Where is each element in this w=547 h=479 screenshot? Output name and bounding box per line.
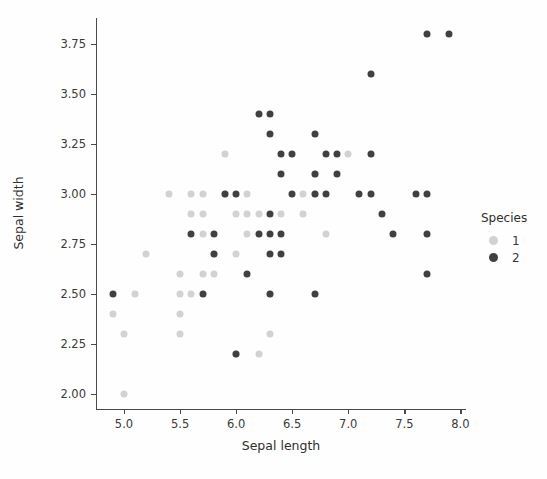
scatter-plot-figure: 5.05.56.06.57.07.58.0 2.002.252.502.753.… [0, 0, 547, 479]
data-point [255, 231, 262, 238]
data-point [334, 151, 341, 158]
data-point [177, 331, 184, 338]
data-point [233, 351, 240, 358]
plot-area [96, 18, 466, 410]
data-point [367, 71, 374, 78]
data-point [311, 191, 318, 198]
legend-marker-icon [489, 253, 498, 262]
data-point [255, 111, 262, 118]
data-point [266, 291, 273, 298]
legend-item-label: 1 [512, 234, 520, 248]
y-tick-label: 2.75 [44, 237, 86, 251]
data-point [233, 251, 240, 258]
data-point [188, 191, 195, 198]
data-point [278, 251, 285, 258]
data-point [278, 171, 285, 178]
data-point [143, 251, 150, 258]
x-tick-label: 7.5 [395, 417, 413, 431]
data-point [121, 331, 128, 338]
data-point [177, 311, 184, 318]
data-point [311, 131, 318, 138]
data-point [109, 311, 116, 318]
data-point [255, 351, 262, 358]
legend: Species 12 [481, 211, 527, 266]
data-point [289, 151, 296, 158]
data-point [244, 211, 251, 218]
data-point [233, 211, 240, 218]
data-point [266, 331, 273, 338]
x-tick-label: 8.0 [451, 417, 469, 431]
data-point [311, 291, 318, 298]
legend-marker-icon [489, 236, 498, 245]
y-tick-label: 3.75 [44, 37, 86, 51]
data-point [221, 191, 228, 198]
y-tick-label: 3.00 [44, 187, 86, 201]
data-point [266, 111, 273, 118]
data-point [423, 191, 430, 198]
data-point [188, 291, 195, 298]
data-point [356, 191, 363, 198]
legend-item[interactable]: 1 [481, 232, 527, 249]
data-point [367, 191, 374, 198]
data-point [221, 151, 228, 158]
data-point [266, 231, 273, 238]
y-axis-label: Sepal width [11, 176, 26, 249]
data-point [334, 171, 341, 178]
data-point [423, 271, 430, 278]
data-point [322, 191, 329, 198]
data-point [412, 191, 419, 198]
data-point [244, 271, 251, 278]
data-point [177, 271, 184, 278]
data-point [188, 231, 195, 238]
data-point [177, 291, 184, 298]
data-point [199, 291, 206, 298]
data-point [188, 211, 195, 218]
data-point [278, 151, 285, 158]
data-point [210, 231, 217, 238]
data-point [199, 191, 206, 198]
data-point [244, 231, 251, 238]
data-point [390, 231, 397, 238]
data-point [255, 211, 262, 218]
data-point [446, 31, 453, 38]
data-point [109, 291, 116, 298]
y-tick-label: 3.50 [44, 87, 86, 101]
data-point [132, 291, 139, 298]
x-axis-label: Sepal length [242, 438, 321, 453]
x-tick-label: 7.0 [339, 417, 357, 431]
legend-item-label: 2 [512, 251, 520, 265]
y-tick-label: 2.00 [44, 387, 86, 401]
data-point [300, 191, 307, 198]
y-tick-label: 3.25 [44, 137, 86, 151]
x-tick-label: 5.0 [115, 417, 133, 431]
data-point [423, 231, 430, 238]
x-tick-label: 6.0 [227, 417, 245, 431]
data-point [199, 231, 206, 238]
data-point [199, 211, 206, 218]
data-point [165, 191, 172, 198]
x-tick-label: 6.5 [283, 417, 301, 431]
data-point [423, 31, 430, 38]
data-point [311, 171, 318, 178]
data-point [210, 251, 217, 258]
x-tick-label: 5.5 [171, 417, 189, 431]
data-point [278, 231, 285, 238]
data-point [121, 391, 128, 398]
data-point [345, 151, 352, 158]
data-point [210, 271, 217, 278]
data-point [367, 151, 374, 158]
data-point [244, 191, 251, 198]
data-point [278, 211, 285, 218]
data-point [289, 191, 296, 198]
data-point [322, 151, 329, 158]
legend-title: Species [481, 211, 527, 225]
data-point [266, 251, 273, 258]
data-point [199, 271, 206, 278]
legend-entries: 12 [481, 232, 527, 266]
y-tick-label: 2.50 [44, 287, 86, 301]
data-point [322, 231, 329, 238]
data-point [378, 211, 385, 218]
data-point [233, 191, 240, 198]
data-point [266, 131, 273, 138]
legend-item[interactable]: 2 [481, 249, 527, 266]
